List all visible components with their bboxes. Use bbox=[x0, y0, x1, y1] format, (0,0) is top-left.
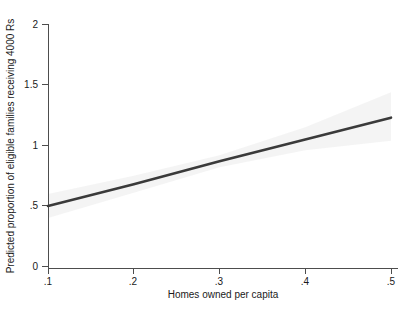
y-tick-label-0: 0 bbox=[32, 261, 38, 272]
y-tick-label-2: 2 bbox=[32, 19, 38, 30]
chart-figure: 2 1.5 1 .5 0 .1 .2 .3 .4 .5 Homes owned … bbox=[0, 0, 408, 312]
y-tick-label-1: 1 bbox=[32, 140, 38, 151]
x-tick-label-point4: .4 bbox=[301, 276, 310, 287]
confidence-interval-band bbox=[48, 92, 391, 218]
x-tick-label-point3: .3 bbox=[215, 276, 224, 287]
y-axis-title: Predicted proportion of eligible familie… bbox=[5, 19, 16, 274]
prediction-line bbox=[48, 118, 391, 206]
x-tick-label-point1: .1 bbox=[44, 276, 53, 287]
y-tick-label-point5: .5 bbox=[30, 200, 39, 211]
x-axis-title: Homes owned per capita bbox=[168, 289, 279, 300]
line-chart-plot: 2 1.5 1 .5 0 .1 .2 .3 .4 .5 Homes owned … bbox=[0, 0, 408, 312]
y-tick-label-1point5: 1.5 bbox=[24, 79, 38, 90]
x-tick-label-point2: .2 bbox=[129, 276, 138, 287]
x-tick-label-point5: .5 bbox=[387, 276, 396, 287]
